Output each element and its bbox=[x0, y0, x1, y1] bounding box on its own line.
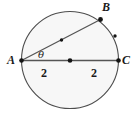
label-point-b: B bbox=[101, 0, 110, 14]
label-angle-theta: θ bbox=[38, 49, 44, 60]
point-marker-midpoint-ab bbox=[60, 38, 63, 41]
point-marker-b bbox=[98, 17, 103, 22]
point-marker-a bbox=[19, 58, 24, 63]
point-marker-center bbox=[68, 58, 73, 63]
label-length-oc: 2 bbox=[91, 66, 97, 80]
label-length-ao: 2 bbox=[41, 66, 47, 80]
point-marker-c bbox=[116, 58, 121, 63]
label-point-a: A bbox=[6, 53, 15, 67]
figure-canvas: A B C θ 2 2 bbox=[0, 0, 140, 119]
point-marker-arc-bc bbox=[113, 34, 116, 37]
label-point-c: C bbox=[122, 53, 131, 67]
geometry-figure: A B C θ 2 2 bbox=[0, 0, 140, 119]
